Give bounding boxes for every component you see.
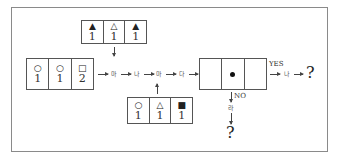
no-result: ? <box>226 124 235 142</box>
cell-value: 1 <box>132 31 139 43</box>
left-cell-1: ○ 1 <box>27 59 49 89</box>
arrow-right-icon <box>294 74 303 75</box>
bottom-cell-2: △ 1 <box>150 98 172 123</box>
dot-icon <box>230 72 235 77</box>
arrow-right-icon <box>144 74 154 75</box>
chain-step-1: 마 <box>111 70 117 78</box>
arrow-right-icon <box>270 74 280 75</box>
arrow-up-icon <box>157 84 158 94</box>
top-box: ▲ 1 △ 1 ▲ 1 <box>81 20 147 44</box>
yes-label: YES <box>269 60 284 68</box>
arrow-right-icon <box>189 74 198 75</box>
decision-cell-1 <box>200 59 222 89</box>
arrow-right-icon <box>98 74 108 75</box>
chain-step-2: 나 <box>134 70 140 78</box>
cell-value: 1 <box>56 73 63 85</box>
yes-result: ? <box>306 64 315 82</box>
left-cell-3: □ 2 <box>72 59 93 89</box>
decision-cell-3 <box>245 59 266 89</box>
left-cell-2: ○ 1 <box>49 59 71 89</box>
chain-step-3: 마 <box>156 70 162 78</box>
cell-value: 1 <box>34 73 41 85</box>
arrow-down-icon <box>114 47 115 56</box>
cell-value: 1 <box>135 110 142 122</box>
cell-value: 1 <box>178 110 185 122</box>
yes-step: 나 <box>284 70 290 78</box>
bottom-box: ○ 1 △ 1 ■ 1 <box>127 97 193 124</box>
decision-box <box>199 58 267 90</box>
left-box: ○ 1 ○ 1 □ 2 <box>26 58 94 90</box>
bottom-cell-1: ○ 1 <box>128 98 150 123</box>
circle-icon: ○ <box>134 100 142 110</box>
arrow-down-icon <box>231 92 232 102</box>
cell-value: 1 <box>157 110 164 122</box>
outline-triangle-icon: △ <box>157 100 164 110</box>
arrow-right-icon <box>121 74 131 75</box>
cell-value: 1 <box>89 31 96 43</box>
cell-value: 2 <box>79 73 86 85</box>
top-cell-2: △ 1 <box>104 21 126 43</box>
filled-square-icon: ■ <box>177 100 186 110</box>
top-cell-3: ▲ 1 <box>125 21 146 43</box>
chain-step-4: 다 <box>179 70 185 78</box>
arrow-right-icon <box>166 74 176 75</box>
top-cell-1: ▲ 1 <box>82 21 104 43</box>
no-step: 라 <box>228 104 234 112</box>
no-label: NO <box>234 92 246 100</box>
cell-value: 1 <box>111 31 118 43</box>
decision-cell-2 <box>222 59 244 89</box>
bottom-cell-3: ■ 1 <box>171 98 192 123</box>
